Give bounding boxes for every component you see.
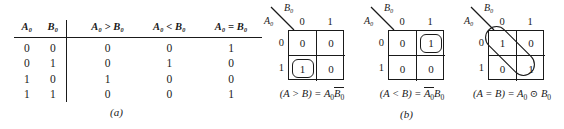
- kmap-equation-lhs: (A = B) =: [473, 88, 515, 99]
- cell-lt: 0: [138, 86, 200, 102]
- kmap-row-header-1: 1: [370, 55, 384, 80]
- cell-a0: 1: [14, 86, 40, 102]
- kmap-row-header-1: 1: [470, 55, 484, 80]
- cell-eq: 1: [200, 37, 262, 55]
- xnor-operator-icon: ⊙: [530, 88, 538, 99]
- kmap-equation: (A > B) = A0B0: [262, 88, 362, 102]
- part-a-truth-table-figure: A₀ B₀ A₀ > B₀ A₀ < B₀ A₀ = B₀ 0 0 0 0 1 …: [0, 0, 262, 129]
- kmap-col-header-0: 0: [288, 16, 316, 27]
- kmap-cell: 1: [417, 31, 445, 56]
- header-a0: A₀: [14, 20, 40, 37]
- cell-gt: 0: [66, 86, 138, 102]
- kmap-row-variable-label: A₀: [264, 15, 274, 26]
- kmap-equation-term-b: B0: [434, 88, 444, 99]
- cell-gt: 1: [66, 71, 138, 87]
- header-a0-lt-b0: A₀ < B₀: [138, 20, 200, 37]
- kmap-cell: 0: [389, 31, 417, 56]
- kmap-grouping-loop-diagonal: [483, 25, 553, 89]
- cell-b0: 1: [40, 55, 66, 71]
- header-b0: B₀: [40, 20, 66, 37]
- kmap-col-header-1: 1: [316, 16, 344, 27]
- kmap-col-header-0: 0: [388, 16, 416, 27]
- table-row: 1 0 1 0 0: [14, 71, 262, 87]
- cell-lt: 0: [138, 71, 200, 87]
- table-row: 0 0 0 0 1: [14, 37, 262, 55]
- kmap-row-header-0: 0: [370, 30, 384, 55]
- kmap-cell: 1: [289, 56, 317, 81]
- part-a-caption: (a): [110, 106, 123, 118]
- kmap-equation-term-a: A0: [517, 88, 527, 99]
- kmap-a-less-than-b: B₀ A₀ 0 1 0 1 0 1 0 0 (A < B) = A0B0 (b): [362, 0, 462, 129]
- kmap-equation-lhs: (A > B) =: [280, 88, 322, 99]
- cell-b0: 1: [40, 86, 66, 102]
- cell-eq: 1: [200, 86, 262, 102]
- table-row: 1 1 0 0 1: [14, 86, 262, 102]
- cell-a0: 0: [14, 37, 40, 55]
- kmap-row-variable-label: A₀: [364, 15, 374, 26]
- header-a0-eq-b0: A₀ = B₀: [200, 20, 262, 37]
- kmap-cell: 0: [317, 31, 345, 56]
- cell-lt: 1: [138, 55, 200, 71]
- kmap-row-header-0: 0: [470, 30, 484, 55]
- part-b-caption: (b): [400, 108, 413, 120]
- kmap-a-greater-than-b: B₀ A₀ 0 1 0 1 0 0 1 0 (A > B) = A0B0: [262, 0, 362, 129]
- kmap-grid: 0 0 1 0: [288, 30, 344, 80]
- cell-gt: 0: [66, 37, 138, 55]
- kmap-row-header-0: 0: [270, 30, 284, 55]
- cell-b0: 0: [40, 71, 66, 87]
- kmap-col-header-1: 1: [416, 16, 444, 27]
- cell-eq: 0: [200, 55, 262, 71]
- kmap-cell: 0: [317, 56, 345, 81]
- kmap-cell: 0: [417, 56, 445, 81]
- kmap-col-variable-label: B₀: [284, 2, 294, 13]
- kmap-equation-term-b-complement: B0: [334, 87, 344, 99]
- kmap-equation-term-a: A0: [324, 88, 334, 99]
- table-header-row: A₀ B₀ A₀ > B₀ A₀ < B₀ A₀ = B₀: [14, 20, 262, 37]
- cell-gt: 0: [66, 55, 138, 71]
- cell-b0: 0: [40, 37, 66, 55]
- part-b-kmaps-figure: B₀ A₀ 0 1 0 1 0 0 1 0 (A > B) = A0B0 B₀ …: [262, 0, 564, 129]
- kmap-cell: 0: [289, 31, 317, 56]
- kmap-col-variable-label: B₀: [484, 2, 494, 13]
- kmap-equation: (A = B) = A0 ⊙ B0: [462, 88, 562, 102]
- kmap-row-variable-label: A₀: [464, 15, 474, 26]
- kmap-grid: 0 1 0 0: [388, 30, 444, 80]
- table-row: 0 1 0 1 0: [14, 55, 262, 71]
- kmap-equation: (A < B) = A0B0: [362, 88, 462, 102]
- kmap-equation-term-a-complement: A0: [424, 87, 434, 99]
- kmap-equation-term-b: B0: [541, 88, 551, 99]
- kmap-row-header-1: 1: [270, 55, 284, 80]
- cell-a0: 0: [14, 55, 40, 71]
- kmap-equation-lhs: (A < B) =: [380, 88, 422, 99]
- kmap-grid: 1 0 0 1: [488, 30, 544, 80]
- kmap-col-variable-label: B₀: [384, 2, 394, 13]
- cell-a0: 1: [14, 71, 40, 87]
- cell-lt: 0: [138, 37, 200, 55]
- header-a0-gt-b0: A₀ > B₀: [66, 20, 138, 37]
- comparator-truth-table: A₀ B₀ A₀ > B₀ A₀ < B₀ A₀ = B₀ 0 0 0 0 1 …: [14, 20, 262, 102]
- kmap-cell: 0: [389, 56, 417, 81]
- cell-eq: 0: [200, 71, 262, 87]
- kmap-a-equals-b: B₀ A₀ 0 1 0 1 1 0 0 1 (A = B) = A0 ⊙ B0: [462, 0, 562, 129]
